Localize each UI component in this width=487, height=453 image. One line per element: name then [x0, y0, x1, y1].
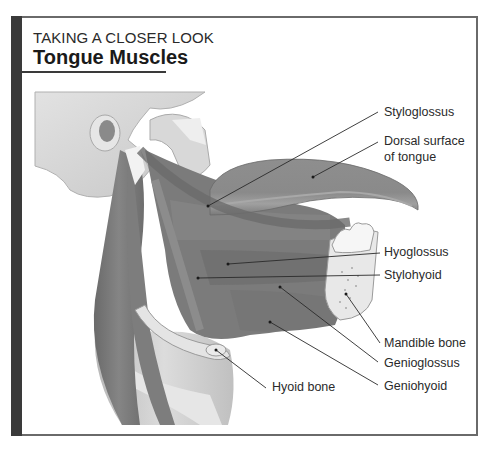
label-geniohyoid: Geniohyoid	[384, 379, 447, 394]
label-mandible-bone: Mandible bone	[384, 336, 466, 351]
label-styloglossus: Styloglossus	[384, 105, 454, 120]
leader-geniohyoid	[270, 322, 378, 385]
label-dorsal-surface-line2: of tongue	[384, 150, 436, 165]
label-genioglossus: Genioglossus	[384, 356, 460, 371]
tongue	[210, 159, 418, 215]
label-dorsal-surface: Dorsal surface	[384, 134, 465, 149]
label-hyoid-bone: Hyoid bone	[272, 380, 335, 395]
label-hyoglossus: Hyoglossus	[384, 245, 449, 260]
label-stylohyoid: Stylohyoid	[384, 268, 442, 283]
